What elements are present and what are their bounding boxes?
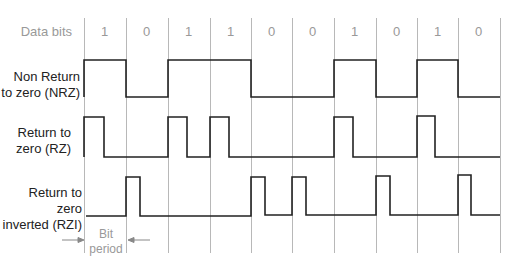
bit-gridlines [85, 18, 501, 253]
bit-period-arrows [62, 238, 150, 243]
waveform-canvas [0, 0, 512, 271]
